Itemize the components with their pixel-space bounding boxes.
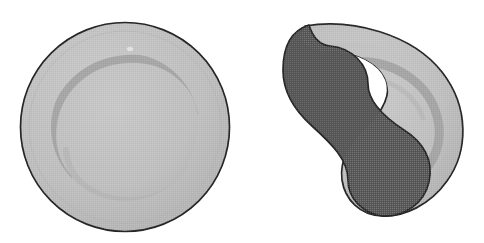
left-panel-undeformed-plate (21, 23, 230, 232)
figure-canvas: Plate shape deformation comparison Left:… (0, 0, 484, 243)
plate-texture-overlay (21, 23, 229, 231)
figure-root: Plate shape deformation comparison Left:… (0, 0, 484, 243)
